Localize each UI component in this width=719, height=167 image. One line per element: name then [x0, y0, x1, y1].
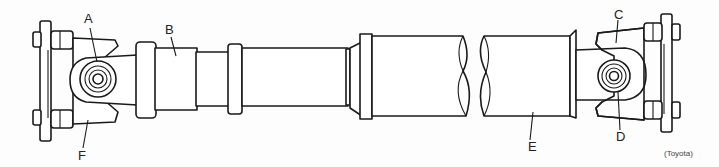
label-e: E — [528, 140, 537, 153]
right-flange — [644, 14, 680, 132]
label-b: B — [165, 23, 174, 36]
label-c: C — [614, 8, 623, 21]
label-f: F — [78, 149, 86, 162]
tube-left-section — [372, 36, 469, 116]
label-d: D — [616, 130, 625, 143]
drive-shaft-diagram: A B C D E F (Toyota) — [0, 0, 719, 167]
tube-right-section — [480, 30, 576, 118]
middle-shaft — [242, 34, 372, 119]
slip-yoke-sleeve — [136, 42, 242, 118]
label-a: A — [84, 12, 93, 25]
source-credit: (Toyota) — [664, 150, 693, 158]
right-universal-joint-bearing — [598, 60, 630, 92]
drive-shaft-drawing — [0, 0, 719, 167]
left-universal-joint-bearing — [80, 61, 116, 97]
left-flange — [33, 21, 73, 141]
